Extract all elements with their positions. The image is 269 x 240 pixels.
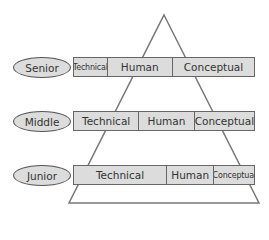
- segment-conceptual: Conceptual: [214, 166, 254, 184]
- segment-technical: Technical: [74, 166, 167, 184]
- segment-conceptual: Conceptual: [195, 112, 254, 130]
- segment-human: Human: [167, 166, 214, 184]
- segment-human: Human: [139, 112, 194, 130]
- level-label-senior: Senior: [13, 57, 71, 78]
- segment-conceptual: Conceptual: [173, 58, 254, 76]
- skill-bar-junior: TechnicalHumanConceptual: [73, 165, 255, 185]
- level-label-middle: Middle: [13, 111, 71, 132]
- segment-human: Human: [108, 58, 173, 76]
- skill-bar-middle: TechnicalHumanConceptual: [73, 111, 255, 131]
- segment-technical: Technical: [74, 58, 108, 76]
- level-label-junior: Junior: [13, 165, 71, 186]
- skill-bar-senior: TechnicalHumanConceptual: [73, 57, 255, 77]
- segment-technical: Technical: [74, 112, 139, 130]
